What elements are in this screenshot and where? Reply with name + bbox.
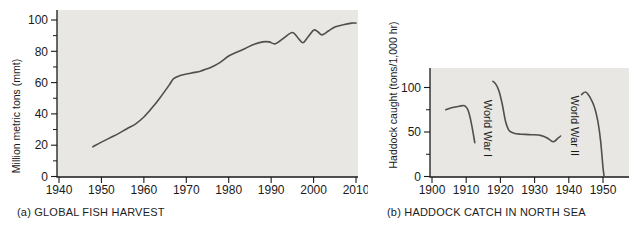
x-tick-label: 1950 <box>88 183 115 197</box>
y-tick-label: 80 <box>35 45 49 59</box>
y-tick-label: 100 <box>401 81 421 95</box>
caption-chart-a: (a) GLOBAL FISH HARVEST <box>17 206 165 218</box>
y-tick-label: 100 <box>28 13 48 27</box>
x-tick-label: 1930 <box>521 183 548 197</box>
x-tick-label: 1910 <box>453 183 480 197</box>
plot-area <box>57 10 358 177</box>
x-tick-label: 1950 <box>590 183 617 197</box>
figure-fish-harvest-haddock: 0204060801001940195019601970198019902000… <box>0 0 632 234</box>
y-tick-label: 20 <box>35 138 49 152</box>
y-tick-label: 60 <box>35 76 49 90</box>
x-tick-label: 1980 <box>215 183 242 197</box>
x-tick-label: 1990 <box>258 183 285 197</box>
x-tick-label: 1960 <box>131 183 158 197</box>
x-tick-label: 1900 <box>419 183 446 197</box>
x-tick-label: 1920 <box>487 183 514 197</box>
y-tick-label: 0 <box>414 170 421 184</box>
chart-haddock-catch: 050100190019101920193019401950Haddock ca… <box>368 0 632 200</box>
y-tick-label: 0 <box>41 170 48 184</box>
x-tick-label: 2010 <box>343 183 368 197</box>
y-tick-label: 50 <box>408 125 422 139</box>
x-tick-label: 2000 <box>300 183 327 197</box>
x-tick-label: 1940 <box>555 183 582 197</box>
caption-chart-b: (b) HADDOCK CATCH IN NORTH SEA <box>387 206 586 218</box>
y-axis-label: Million metric tons (mmt) <box>10 59 22 173</box>
y-tick-label: 40 <box>35 107 49 121</box>
plot-area <box>430 68 629 177</box>
annotation-world-war-i: World War I <box>482 100 494 157</box>
x-tick-label: 1970 <box>173 183 200 197</box>
chart-global-fish-harvest: 0204060801001940195019601970198019902000… <box>0 0 368 200</box>
x-tick-label: 1940 <box>46 183 73 197</box>
y-axis-label: Haddock caught (tons/1,000 hr) <box>387 21 399 168</box>
annotation-world-war-ii: World War II <box>569 96 581 157</box>
